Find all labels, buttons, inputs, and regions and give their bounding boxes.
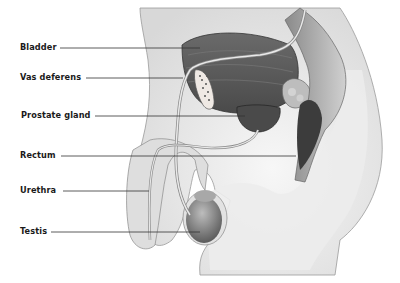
label-prostate-gland: Prostate gland <box>21 110 91 120</box>
label-testis: Testis <box>20 226 47 236</box>
testis-organ <box>183 190 227 245</box>
label-vas-deferens: Vas deferens <box>20 72 81 82</box>
label-rectum: Rectum <box>20 150 56 160</box>
anatomy-diagram: Bladder Vas deferens Prostate gland Rect… <box>0 0 400 283</box>
anatomy-illustration <box>0 0 400 283</box>
label-urethra: Urethra <box>20 185 56 195</box>
label-bladder: Bladder <box>20 42 57 52</box>
